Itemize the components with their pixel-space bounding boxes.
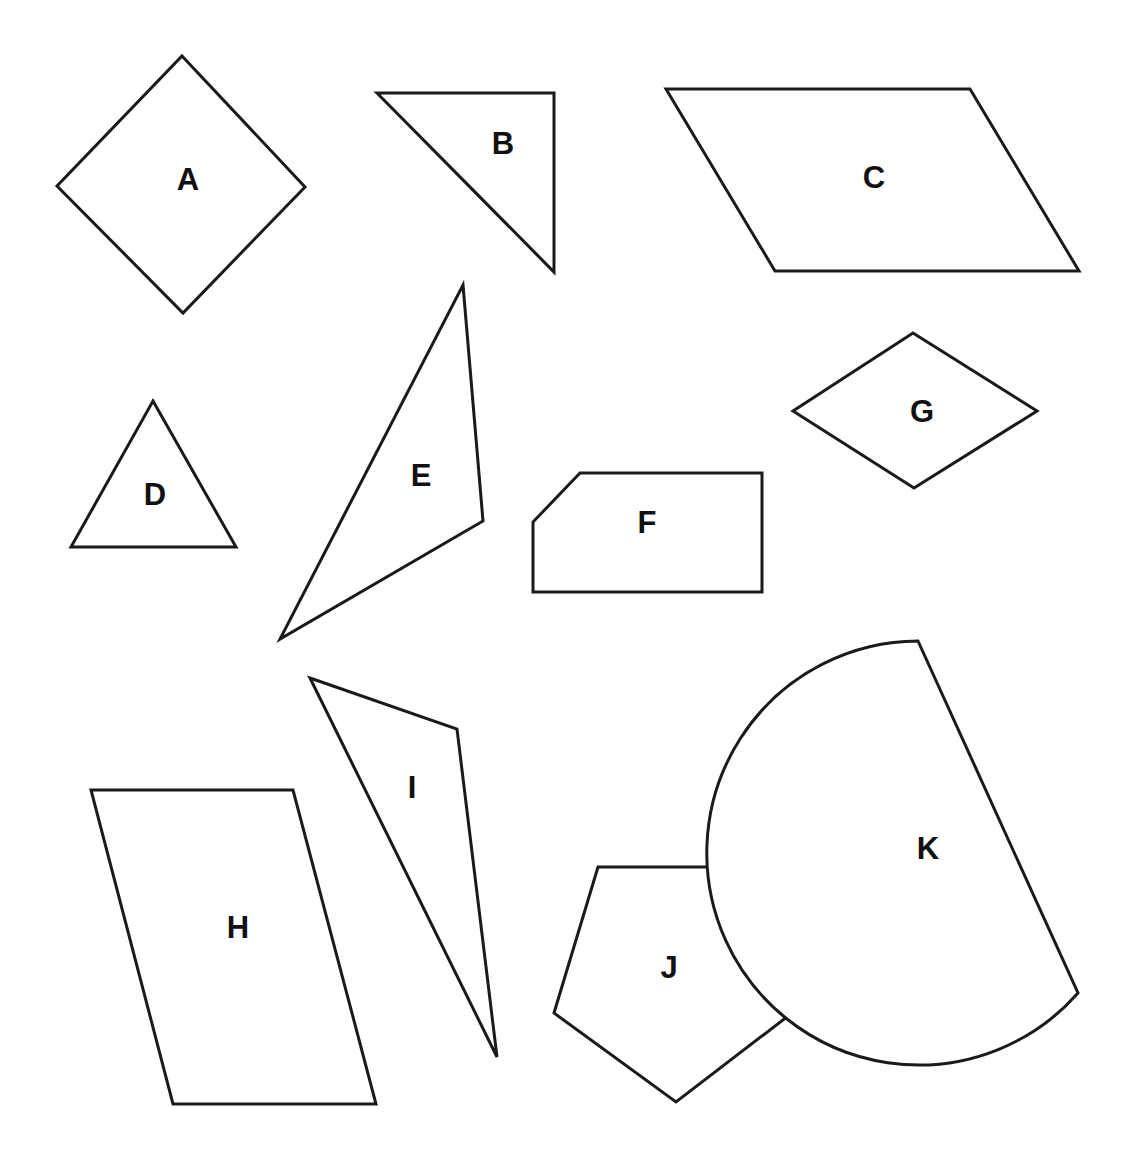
shape-e[interactable] (280, 285, 483, 639)
shapes-group (57, 56, 1079, 1104)
shapes-svg: ABCDEFGHIJK (0, 0, 1141, 1161)
shape-h[interactable] (91, 790, 376, 1104)
shape-label-b: B (492, 126, 514, 161)
shape-label-c: C (863, 160, 885, 195)
shape-label-k: K (917, 831, 940, 866)
shape-label-a: A (177, 162, 199, 197)
shape-d[interactable] (71, 401, 236, 547)
shape-label-f: F (638, 505, 657, 540)
shape-sheet-canvas: ABCDEFGHIJK (0, 0, 1141, 1161)
shape-label-d: D (144, 477, 166, 512)
shape-label-e: E (411, 458, 432, 493)
shape-b[interactable] (377, 93, 554, 272)
shape-label-i: I (408, 770, 417, 805)
shape-label-h: H (227, 910, 249, 945)
shape-label-g: G (910, 394, 934, 429)
shape-label-j: J (660, 950, 677, 985)
